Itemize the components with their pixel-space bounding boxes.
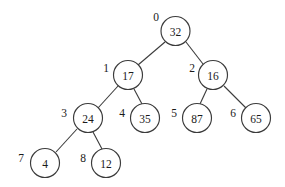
tree-node[interactable]: 12 [92, 149, 121, 178]
node-index-label: 2 [189, 62, 195, 74]
tree-node[interactable]: 16 [199, 61, 228, 90]
tree-node[interactable]: 65 [242, 104, 271, 133]
node-value-label: 4 [42, 158, 48, 170]
tree-edge-1-3 [98, 86, 118, 108]
tree-node[interactable]: 35 [131, 104, 160, 133]
node-value-label: 35 [139, 113, 151, 125]
tree-node[interactable]: 32 [161, 17, 190, 46]
node-value-label: 24 [82, 113, 94, 125]
node-index-label: 6 [230, 107, 236, 119]
node-value-label: 65 [250, 113, 262, 125]
node-value-label: 12 [100, 158, 112, 170]
node-value-label: 87 [191, 113, 203, 125]
node-value-label: 32 [170, 26, 182, 38]
tree-edge-1-4 [134, 89, 142, 104]
node-index-label: 3 [61, 107, 67, 119]
tree-diagram-svg: 32171624358765412 012345678 [0, 0, 285, 187]
tree-edge-3-8 [93, 132, 102, 149]
tree-node[interactable]: 4 [31, 149, 60, 178]
tree-node[interactable]: 24 [74, 104, 103, 133]
tree-edge-3-7 [56, 129, 77, 152]
binary-tree-figure: 32171624358765412 012345678 [0, 0, 285, 187]
tree-edge-0-1 [138, 42, 165, 65]
tree-node[interactable]: 17 [114, 61, 143, 90]
tree-node[interactable]: 87 [183, 104, 212, 133]
node-index-label: 4 [119, 107, 125, 119]
node-index-label: 8 [80, 152, 86, 164]
tree-edge-2-6 [224, 86, 246, 108]
tree-edge-0-2 [186, 42, 203, 64]
node-value-label: 17 [122, 70, 134, 82]
node-value-label: 16 [207, 70, 219, 82]
node-index-label: 1 [103, 62, 109, 74]
node-index-label: 7 [18, 152, 24, 164]
tree-edge-2-5 [200, 89, 207, 104]
node-index-label: 0 [153, 11, 159, 23]
node-index-label: 5 [171, 107, 177, 119]
edges-group [56, 42, 246, 152]
